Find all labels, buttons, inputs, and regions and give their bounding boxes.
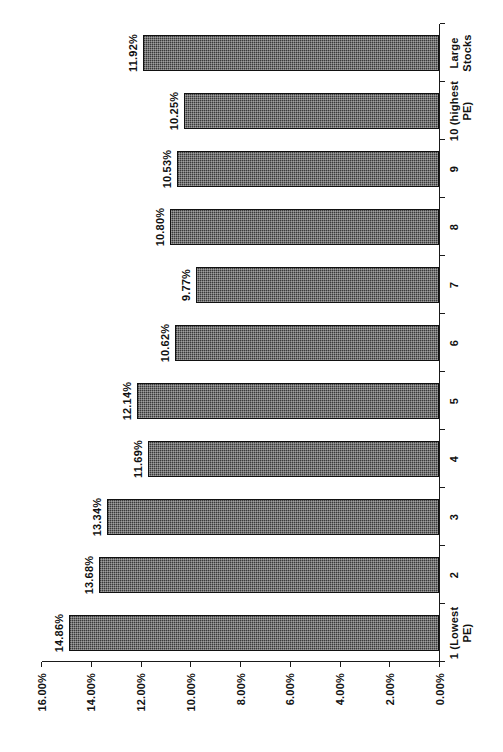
value-axis-tick: 10.00% — [190, 662, 191, 667]
bar-slot: 11.69%4 — [42, 430, 440, 488]
bar-slot: 10.25%10 (highest PE) — [42, 82, 440, 140]
bar-slot: 10.80%8 — [42, 198, 440, 256]
category-label: 9 — [448, 138, 461, 200]
chart-page: 0.00%2.00%4.00%6.00%8.00%10.00%12.00%14.… — [0, 0, 503, 752]
bar-slot: 12.14%5 — [42, 372, 440, 430]
bar-value-label: 10.25% — [168, 92, 180, 131]
bar: 11.69% — [148, 441, 439, 477]
value-axis-tick-label: 8.00% — [235, 673, 247, 705]
bar-value-label: 9.77% — [180, 269, 192, 301]
bar-value-label: 11.69% — [132, 440, 144, 478]
category-label: 4 — [448, 428, 461, 490]
bar: 13.34% — [107, 499, 439, 535]
category-label: 2 — [448, 544, 461, 606]
category-axis-tick — [440, 81, 445, 82]
value-axis-tick: 6.00% — [290, 662, 291, 667]
bar-value-label: 10.80% — [154, 208, 166, 247]
category-label: 10 (highest PE) — [448, 80, 473, 142]
category-label: 1 (Lowest PE) — [448, 602, 473, 664]
bar-value-label: 13.34% — [91, 498, 103, 537]
value-axis-tick-label: 0.00% — [434, 673, 446, 705]
category-axis-tick — [440, 661, 445, 662]
category-axis-tick — [440, 255, 445, 256]
value-axis-tick-label: 4.00% — [334, 673, 346, 705]
category-axis-tick — [440, 487, 445, 488]
bar: 12.14% — [137, 383, 439, 419]
bar-value-label: 11.92% — [127, 34, 139, 72]
category-axis-tick — [440, 23, 445, 24]
bar-value-label: 12.14% — [121, 382, 133, 421]
value-axis-tick: 8.00% — [240, 662, 241, 667]
bar: 10.62% — [175, 325, 439, 361]
value-axis-tick: 2.00% — [389, 662, 390, 667]
bar-slot: 13.68%2 — [42, 546, 440, 604]
bar: 10.80% — [170, 209, 439, 245]
value-axis-tick-label: 16.00% — [36, 673, 48, 712]
value-axis-tick-label: 12.00% — [135, 673, 147, 712]
category-axis-tick — [440, 429, 445, 430]
bar: 11.92% — [143, 35, 440, 71]
bar-value-label: 13.68% — [83, 556, 95, 595]
bar: 13.68% — [99, 557, 439, 593]
bar: 10.53% — [177, 151, 439, 187]
category-axis-tick — [440, 371, 445, 372]
category-axis-tick — [440, 197, 445, 198]
bar-slot: 13.34%3 — [42, 488, 440, 546]
value-axis-tick-label: 6.00% — [284, 673, 296, 705]
category-axis-tick — [440, 545, 445, 546]
value-axis-tick-label: 10.00% — [185, 673, 197, 712]
bar: 10.25% — [184, 93, 439, 129]
value-axis-tick: 14.00% — [91, 662, 92, 667]
category-axis-tick — [440, 313, 445, 314]
category-label: 3 — [448, 486, 461, 548]
category-label: 6 — [448, 312, 461, 374]
category-label: Large Stocks — [448, 22, 473, 84]
bar-slot: 10.53%9 — [42, 140, 440, 198]
bar-slot: 14.86%1 (Lowest PE) — [42, 604, 440, 662]
value-axis-tick-label: 14.00% — [85, 673, 97, 712]
bar-slot: 11.92%Large Stocks — [42, 24, 440, 82]
bar-value-label: 10.53% — [161, 150, 173, 189]
category-label: 7 — [448, 254, 461, 316]
category-axis-tick — [440, 139, 445, 140]
category-axis-tick — [440, 603, 445, 604]
category-label: 5 — [448, 370, 461, 432]
bar: 9.77% — [196, 267, 439, 303]
bar-value-label: 14.86% — [53, 614, 65, 653]
value-axis-tick-label: 2.00% — [384, 673, 396, 705]
plot-area: 0.00%2.00%4.00%6.00%8.00%10.00%12.00%14.… — [42, 24, 440, 662]
value-axis-tick: 0.00% — [439, 662, 440, 667]
category-label: 8 — [448, 196, 461, 258]
value-axis-tick: 16.00% — [41, 662, 42, 667]
value-axis-tick: 12.00% — [141, 662, 142, 667]
bar-slot: 10.62%6 — [42, 314, 440, 372]
value-axis-tick: 4.00% — [340, 662, 341, 667]
bar: 14.86% — [69, 615, 439, 651]
bar-slot: 9.77%7 — [42, 256, 440, 314]
bar-value-label: 10.62% — [159, 324, 171, 363]
